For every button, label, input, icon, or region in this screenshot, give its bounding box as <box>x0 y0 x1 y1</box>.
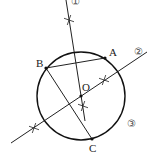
point-c-dot <box>90 137 93 140</box>
point-b-dot <box>44 66 47 69</box>
geometry-diagram: A B C O ① ② ③ <box>0 0 153 155</box>
label-line-2: ② <box>134 46 143 57</box>
perpendicular-bisector-line-2 <box>11 52 147 143</box>
label-line-1: ① <box>71 0 80 7</box>
label-c: C <box>89 142 96 154</box>
label-o: O <box>82 81 90 93</box>
label-b: B <box>36 57 43 69</box>
label-a: A <box>109 46 117 58</box>
point-o-dot <box>79 94 82 97</box>
segment-bc <box>46 68 92 139</box>
point-a-dot <box>103 56 106 59</box>
label-circle-3: ③ <box>127 118 136 129</box>
